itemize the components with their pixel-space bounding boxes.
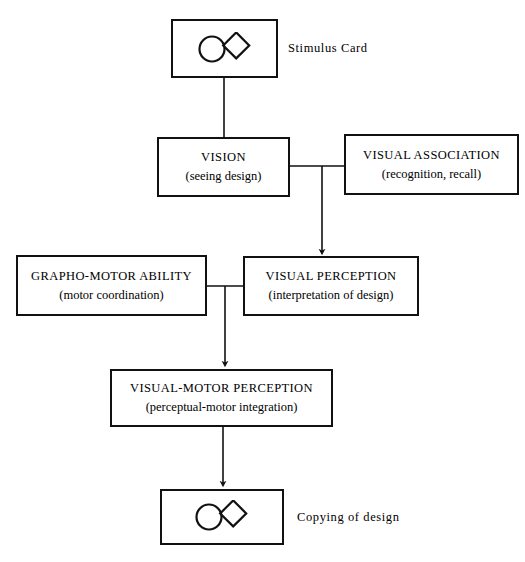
node-vision-subtitle: (seeing design) [185, 167, 261, 186]
node-grapho-motor-ability-subtitle: (motor coordination) [59, 286, 164, 305]
node-visual-motor-perception-title: VISUAL-MOTOR PERCEPTION [130, 379, 313, 398]
node-vision[interactable]: VISION (seeing design) [157, 137, 290, 197]
copying-of-design-label: Copying of design [297, 510, 400, 525]
node-visual-perception[interactable]: VISUAL PERCEPTION (interpretation of des… [243, 256, 419, 316]
diagram-canvas: Stimulus Card VISION (seeing design) VIS… [0, 0, 525, 562]
circle-diamond-figure-icon [191, 500, 253, 534]
node-visual-perception-title: VISUAL PERCEPTION [266, 267, 397, 286]
node-visual-perception-subtitle: (interpretation of design) [269, 286, 394, 305]
node-visual-association-title: VISUAL ASSOCIATION [363, 146, 500, 165]
node-visual-association-subtitle: (recognition, recall) [382, 165, 481, 184]
node-visual-motor-perception[interactable]: VISUAL-MOTOR PERCEPTION (perceptual-moto… [110, 369, 333, 427]
stimulus-card-box [171, 19, 278, 78]
node-vision-title: VISION [201, 148, 246, 167]
node-grapho-motor-ability[interactable]: GRAPHO-MOTOR ABILITY (motor coordination… [16, 255, 207, 316]
node-grapho-motor-ability-title: GRAPHO-MOTOR ABILITY [31, 267, 192, 286]
node-visual-association[interactable]: VISUAL ASSOCIATION (recognition, recall) [344, 134, 519, 195]
copying-of-design-box [160, 489, 284, 545]
circle-diamond-figure-icon [194, 32, 256, 66]
node-visual-motor-perception-subtitle: (perceptual-motor integration) [146, 398, 298, 417]
stimulus-card-label: Stimulus Card [288, 41, 368, 56]
